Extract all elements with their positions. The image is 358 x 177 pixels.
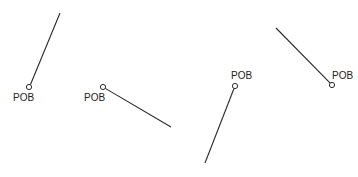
- pob-label: POB: [84, 92, 105, 103]
- line-segment: [105, 88, 171, 127]
- point-of-beginning-marker: [232, 83, 237, 88]
- figure-3: POB: [205, 70, 252, 163]
- figure-2: POB: [84, 84, 171, 127]
- figure-1: POB: [13, 13, 60, 103]
- line-segment: [276, 28, 330, 83]
- point-of-beginning-marker: [329, 82, 334, 87]
- point-of-beginning-marker: [100, 84, 105, 89]
- pob-label: POB: [231, 70, 252, 81]
- line-segment: [205, 89, 234, 164]
- figure-4: POB: [276, 28, 353, 88]
- pob-label: POB: [13, 92, 34, 103]
- point-of-beginning-marker: [26, 84, 31, 89]
- pob-label: POB: [332, 70, 353, 81]
- pob-diagram: POB POB POB POB: [0, 0, 358, 177]
- line-segment: [31, 13, 61, 85]
